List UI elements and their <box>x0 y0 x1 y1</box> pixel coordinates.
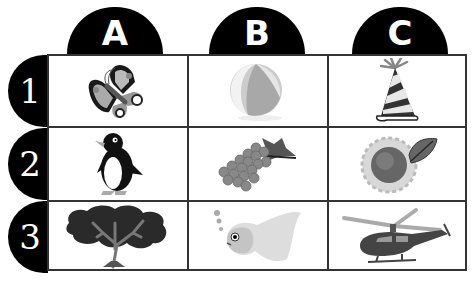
cell-2a <box>49 128 189 202</box>
cell-1c <box>329 56 465 128</box>
cell-1b <box>189 56 329 128</box>
row-header-2: 2 <box>8 128 48 200</box>
helicopter-icon <box>340 206 454 266</box>
cell-2c <box>329 128 465 202</box>
fish-icon <box>213 205 303 267</box>
column-header-b: B <box>209 7 305 54</box>
column-header-a: A <box>67 7 163 54</box>
cell-1a <box>49 56 189 128</box>
row-header-3: 3 <box>8 201 48 273</box>
grapes-icon <box>216 134 300 194</box>
cell-3b <box>189 202 329 269</box>
row-header-1: 1 <box>8 55 48 127</box>
cell-3c <box>329 202 465 269</box>
penguin-icon <box>91 131 145 197</box>
cell-2b <box>189 128 329 202</box>
tree-icon <box>63 203 173 269</box>
cell-3a <box>49 202 189 269</box>
beach-ball-icon <box>226 60 290 122</box>
party-hat-icon <box>373 58 421 124</box>
column-header-c: C <box>352 7 448 54</box>
sunflower-icon <box>355 133 439 195</box>
butterfly-icon <box>83 60 153 122</box>
picture-grid <box>47 54 467 271</box>
